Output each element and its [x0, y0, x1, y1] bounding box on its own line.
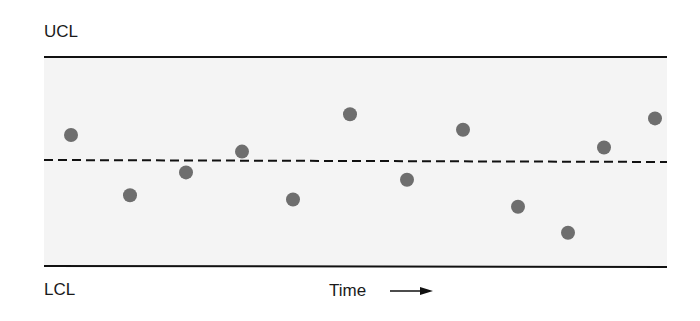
lcl-line: [44, 266, 667, 267]
data-point: [343, 107, 357, 121]
ucl-label: UCL: [44, 22, 78, 42]
data-point: [286, 193, 300, 207]
control-chart: [0, 0, 700, 321]
data-point: [648, 111, 662, 125]
lcl-label: LCL: [44, 280, 75, 300]
time-axis-label: Time: [329, 281, 366, 301]
time-arrow-icon: [390, 287, 433, 295]
data-point: [235, 145, 249, 159]
data-point: [179, 165, 193, 179]
data-point: [123, 188, 137, 202]
data-point: [597, 141, 611, 155]
data-point: [511, 200, 525, 214]
data-point: [400, 173, 414, 187]
data-point: [561, 226, 575, 240]
data-point: [456, 123, 470, 137]
data-point: [64, 128, 78, 142]
